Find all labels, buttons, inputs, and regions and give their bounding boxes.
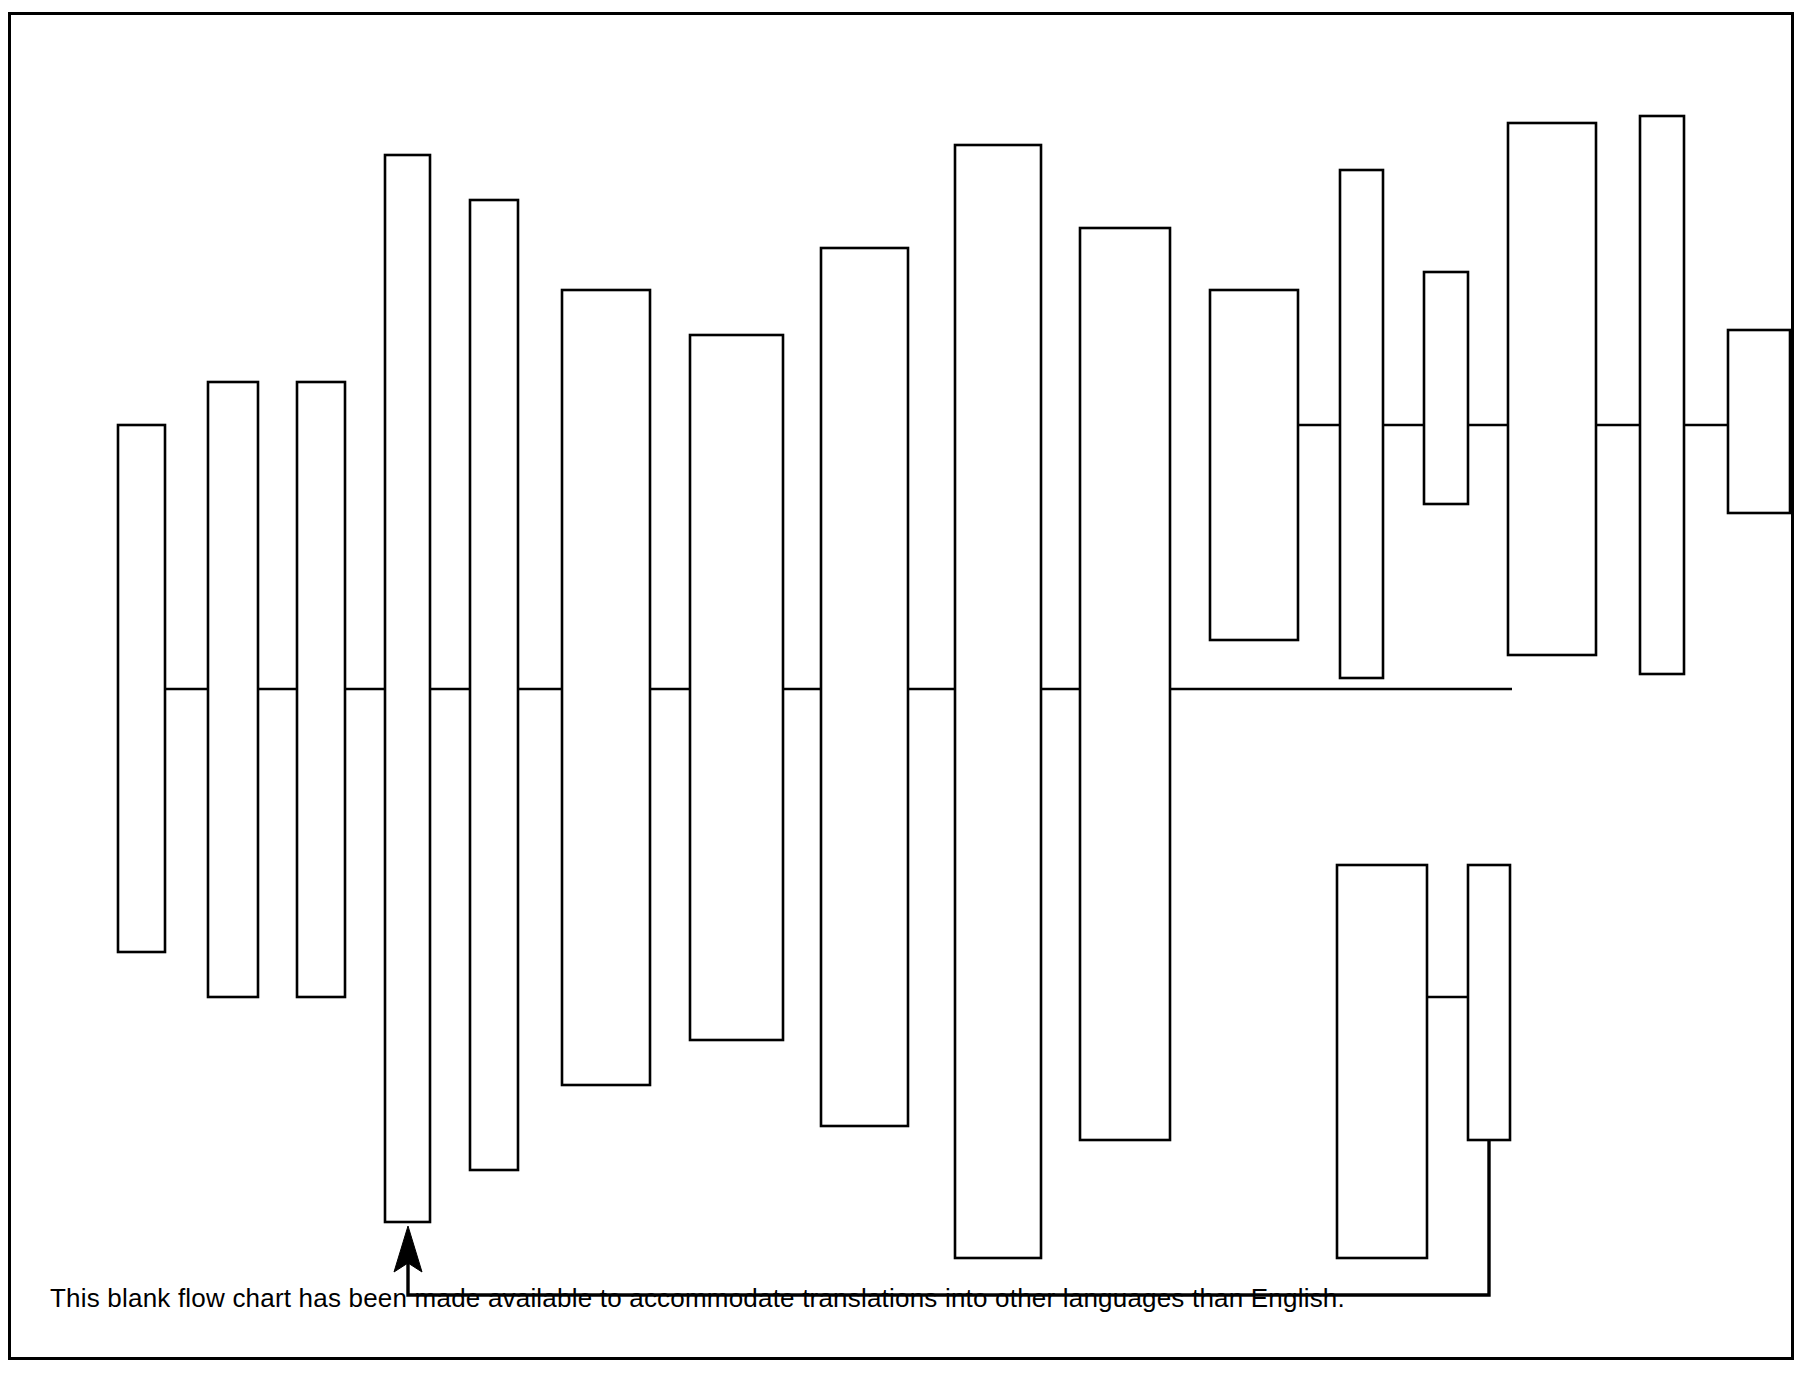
flow-box-4[interactable] <box>385 155 430 1222</box>
flow-box-7[interactable] <box>690 335 783 1040</box>
flow-box-5[interactable] <box>470 200 518 1170</box>
caption-text: This blank flow chart has been made avai… <box>50 1283 1550 1314</box>
flow-box-11[interactable] <box>1210 290 1298 640</box>
flow-box-14[interactable] <box>1508 123 1596 655</box>
flow-box-1[interactable] <box>118 425 165 952</box>
flow-box-8[interactable] <box>821 248 908 1126</box>
flow-box-16[interactable] <box>1728 330 1790 513</box>
flow-box-13[interactable] <box>1424 272 1468 504</box>
flow-box-2[interactable] <box>208 382 258 997</box>
flow-box-12[interactable] <box>1340 170 1383 678</box>
flow-box-15[interactable] <box>1640 116 1684 674</box>
flow-box-17[interactable] <box>1337 865 1427 1258</box>
flow-box-10[interactable] <box>1080 228 1170 1140</box>
feedback-loop <box>394 1140 1489 1295</box>
flow-box-6[interactable] <box>562 290 650 1085</box>
flow-box-3[interactable] <box>297 382 345 997</box>
flow-chart-canvas <box>0 0 1811 1375</box>
flow-chart-page: This blank flow chart has been made avai… <box>0 0 1811 1375</box>
flow-box-9[interactable] <box>955 145 1041 1258</box>
flow-box-18[interactable] <box>1468 865 1510 1140</box>
